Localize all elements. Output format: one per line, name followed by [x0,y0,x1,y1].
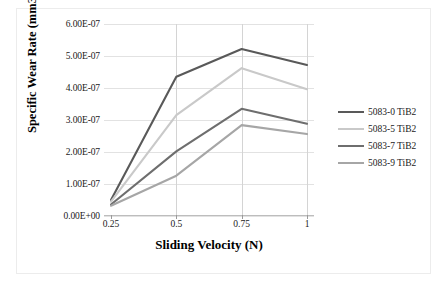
series-line-2 [111,109,307,205]
y-axis-tick-labels: 0.00E+001.00E-072.00E-073.00E-074.00E-07… [38,24,100,216]
series-lines [104,24,314,216]
x-axis-tick-mark [307,215,308,219]
legend-swatch-line-icon [338,128,364,130]
legend-item[interactable]: 5083-7 TiB2 [338,137,434,154]
chart-figure: Specific Wear Rate (mm3/Nm) 0.00E+001.00… [0,0,447,290]
legend-item[interactable]: 5083-5 TiB2 [338,120,434,137]
legend-swatch-line-icon [338,145,364,147]
legend-swatch-line-icon [338,162,364,164]
plot-area [104,24,314,216]
chart-legend: 5083-0 TiB25083-5 TiB25083-7 TiB25083-9 … [338,103,434,171]
y-axis-tick-label: 6.00E-07 [66,19,100,29]
y-axis-tick-label: 5.00E-07 [66,51,100,61]
y-axis-tick-label: 1.00E-07 [66,179,100,189]
x-axis-tick-mark [111,215,112,219]
series-line-3 [111,125,307,206]
legend-item-label: 5083-7 TiB2 [368,141,416,151]
y-axis-tick-label: 4.00E-07 [66,83,100,93]
x-axis-title: Sliding Velocity (N) [104,237,314,253]
x-axis-tick-label: 0.75 [233,219,250,229]
x-axis-tick-mark [176,215,177,219]
legend-item-label: 5083-0 TiB2 [368,107,416,117]
legend-swatch-line-icon [338,111,364,113]
x-axis-tick-mark [242,215,243,219]
legend-item-label: 5083-9 TiB2 [368,158,416,168]
series-line-0 [111,49,307,200]
y-axis-tick-label: 0.00E+00 [64,211,101,221]
legend-item[interactable]: 5083-9 TiB2 [338,154,434,171]
y-axis-tick-label: 3.00E-07 [66,115,100,125]
legend-item[interactable]: 5083-0 TiB2 [338,103,434,120]
x-axis-tick-labels: 0.250.50.751 [104,219,314,235]
legend-item-label: 5083-5 TiB2 [368,124,416,134]
y-axis-tick-label: 2.00E-07 [66,147,100,157]
x-axis-tick-label: 1 [305,219,310,229]
x-axis-tick-label: 0.5 [170,219,182,229]
gridline-horizontal [104,216,314,217]
x-axis-tick-label: 0.25 [103,219,120,229]
